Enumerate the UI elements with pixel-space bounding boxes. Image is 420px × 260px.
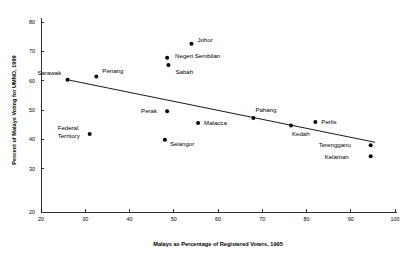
data-point-label: Malacca bbox=[204, 119, 227, 126]
data-point bbox=[163, 138, 167, 142]
scatter-chart: 203040506070809010020304050607080Malays … bbox=[0, 0, 420, 260]
y-tick-label: 70 bbox=[29, 48, 35, 54]
data-point-label: Sarawak bbox=[38, 69, 63, 76]
x-tick-label: 30 bbox=[82, 216, 88, 222]
data-point-label: Perlis bbox=[321, 118, 336, 125]
x-tick-label: 20 bbox=[38, 216, 44, 222]
y-tick-label: 80 bbox=[29, 19, 35, 25]
x-tick-label: 100 bbox=[391, 216, 400, 222]
data-point bbox=[94, 75, 98, 79]
y-tick-label: 30 bbox=[29, 166, 35, 172]
data-point bbox=[196, 121, 200, 125]
y-tick-label: 20 bbox=[29, 209, 35, 215]
data-point-label: Pahang bbox=[255, 106, 276, 113]
data-point bbox=[289, 124, 293, 128]
y-tick-label: 40 bbox=[29, 136, 35, 142]
data-point bbox=[189, 42, 193, 46]
data-point bbox=[165, 56, 169, 60]
data-point bbox=[88, 132, 92, 136]
data-point-label: Sabah bbox=[175, 68, 193, 75]
x-tick-label: 50 bbox=[171, 216, 177, 222]
plot-area: 203040506070809010020304050607080Malays … bbox=[0, 0, 420, 260]
data-point-label: Kedah bbox=[292, 130, 310, 137]
y-tick-label: 50 bbox=[29, 107, 35, 113]
data-point-label: Kelantan bbox=[325, 153, 349, 160]
data-point-label: Negeri Sembilan bbox=[175, 52, 220, 59]
y-axis-title: Percent of Malays Voting for UMNO, 1999 bbox=[11, 55, 17, 164]
data-point bbox=[165, 109, 169, 113]
x-tick-label: 90 bbox=[348, 216, 354, 222]
data-point-label: Penang bbox=[102, 67, 123, 74]
x-axis-title: Malays as Percentage of Registered Voter… bbox=[153, 241, 283, 247]
data-point-label: Terengganu bbox=[319, 141, 351, 148]
data-point-label: Selangor bbox=[170, 140, 194, 147]
y-tick-label: 60 bbox=[29, 78, 35, 84]
data-point bbox=[313, 120, 317, 124]
data-point-label: Perak bbox=[141, 107, 158, 114]
data-point bbox=[369, 154, 373, 158]
x-tick-label: 60 bbox=[215, 216, 221, 222]
x-tick-label: 40 bbox=[127, 216, 133, 222]
data-point bbox=[66, 78, 70, 82]
trend-line bbox=[68, 80, 376, 142]
data-point bbox=[369, 143, 373, 147]
data-point bbox=[166, 63, 170, 67]
data-point-label: FederalTerritory bbox=[58, 124, 81, 139]
x-tick-label: 70 bbox=[259, 216, 265, 222]
data-point bbox=[251, 116, 255, 120]
x-tick-label: 80 bbox=[304, 216, 310, 222]
data-point-label: Johor bbox=[197, 36, 212, 43]
